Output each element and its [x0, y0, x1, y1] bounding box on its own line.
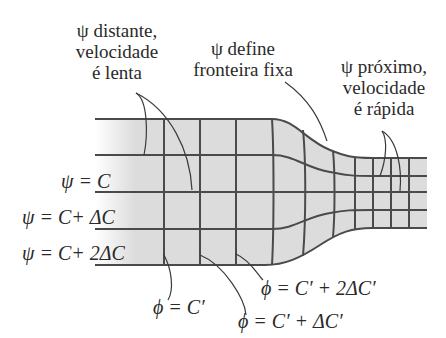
label-psi-far-line3: é lenta — [62, 62, 172, 83]
label-psi-c: ψ = C — [61, 170, 110, 193]
label-phi-c: ϕ = C′ — [153, 296, 205, 319]
label-psi-boundary: ψ define fronteira fixa — [183, 38, 303, 80]
label-phi-c-2dc: ϕ = C′ + 2ΔC′ — [261, 277, 376, 300]
label-psi-near-line1: ψ próximo, — [328, 56, 440, 77]
label-psi-far-line1: ψ distante, — [62, 20, 172, 41]
label-phi-c-dc: ϕ = C′ + ΔC′ — [238, 310, 343, 333]
label-psi-near-line3: é rápida — [328, 98, 440, 119]
label-psi-near: ψ próximo, velocidade é rápida — [328, 56, 440, 119]
label-psi-c-2dc: ψ = C+ 2ΔC — [22, 242, 125, 265]
label-psi-far: ψ distante, velocidade é lenta — [62, 20, 172, 83]
label-psi-c-dc: ψ = C+ ΔC — [22, 206, 115, 229]
label-psi-boundary-line2: fronteira fixa — [183, 59, 303, 80]
label-psi-near-line2: velocidade — [328, 77, 440, 98]
label-psi-far-line2: velocidade — [62, 41, 172, 62]
label-psi-boundary-line1: ψ define — [183, 38, 303, 59]
